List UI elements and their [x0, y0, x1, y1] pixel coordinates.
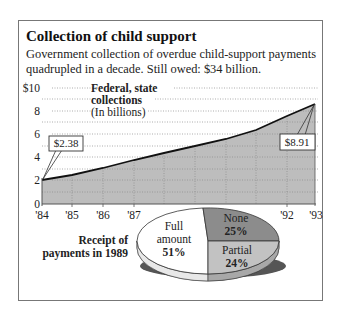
svg-text:Partial: Partial	[222, 244, 252, 256]
chart-canvas: $10 8 6 4 2 0 '84 '85 '86 '87 '92 '93 Fe…	[0, 0, 344, 318]
svg-text:Federal, state: Federal, state	[91, 82, 157, 94]
svg-text:$8.91: $8.91	[285, 136, 310, 148]
svg-text:'86: '86	[96, 209, 110, 221]
svg-text:8: 8	[34, 105, 40, 117]
svg-text:51%: 51%	[163, 246, 186, 258]
svg-text:None: None	[224, 212, 249, 224]
pie-title: Receipt of payments in 1989	[42, 234, 128, 260]
svg-text:'87: '87	[127, 209, 141, 221]
svg-text:amount: amount	[157, 233, 192, 245]
svg-text:'92: '92	[280, 209, 294, 221]
svg-text:4: 4	[34, 151, 40, 163]
svg-text:payments in 1989: payments in 1989	[42, 247, 128, 260]
svg-text:'93: '93	[309, 209, 323, 221]
callout-start: $2.38	[43, 136, 83, 179]
svg-text:Full: Full	[165, 220, 184, 232]
svg-text:$2.38: $2.38	[54, 137, 79, 149]
svg-text:Receipt of: Receipt of	[79, 234, 129, 247]
svg-text:(In billions): (In billions)	[91, 106, 146, 119]
svg-text:$10: $10	[23, 82, 41, 94]
svg-text:'85: '85	[65, 209, 79, 221]
y-tick-labels: $10 8 6 4 2 0	[23, 82, 41, 210]
svg-text:6: 6	[34, 128, 40, 140]
svg-text:24%: 24%	[226, 257, 249, 269]
svg-text:'84: '84	[35, 209, 49, 221]
area-series	[42, 104, 315, 204]
svg-text:collections: collections	[91, 94, 143, 106]
area-chart-title: Federal, state collections (In billions)	[91, 82, 157, 119]
svg-text:2: 2	[34, 174, 40, 186]
svg-text:25%: 25%	[225, 225, 248, 237]
